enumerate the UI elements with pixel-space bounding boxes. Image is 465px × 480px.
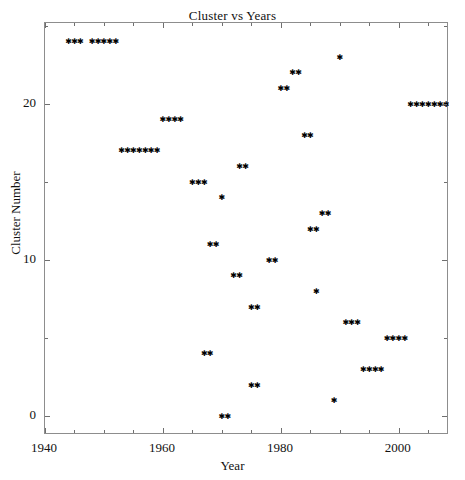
x-tick bbox=[74, 430, 75, 433]
y-tick-right bbox=[444, 338, 447, 339]
scatter-points-layer bbox=[45, 23, 449, 435]
x-tick bbox=[340, 430, 341, 433]
scatter-point bbox=[177, 116, 184, 123]
scatter-point bbox=[407, 101, 414, 108]
chart-figure: Cluster vs Years 1940196019802000 01020 … bbox=[0, 0, 465, 480]
scatter-point bbox=[213, 241, 220, 248]
x-tick-label: 2000 bbox=[368, 440, 428, 456]
y-tick bbox=[45, 416, 50, 417]
x-tick bbox=[104, 430, 105, 433]
y-tick-label: 20 bbox=[0, 95, 36, 111]
scatter-point bbox=[319, 210, 326, 217]
x-tick-label: 1940 bbox=[14, 440, 74, 456]
x-tick-top bbox=[104, 23, 105, 26]
x-tick bbox=[222, 430, 223, 433]
scatter-point bbox=[118, 147, 125, 154]
scatter-point bbox=[201, 350, 208, 357]
scatter-point bbox=[254, 382, 261, 389]
scatter-point bbox=[425, 101, 432, 108]
x-tick-top bbox=[251, 23, 252, 26]
y-tick-right bbox=[444, 182, 447, 183]
scatter-point bbox=[413, 101, 420, 108]
scatter-point bbox=[165, 116, 172, 123]
scatter-point bbox=[336, 54, 343, 61]
y-tick bbox=[45, 260, 50, 261]
x-tick-top bbox=[222, 23, 223, 26]
x-tick-top bbox=[281, 23, 282, 28]
x-axis-title: Year bbox=[0, 458, 465, 474]
y-tick-right bbox=[442, 260, 447, 261]
scatter-point bbox=[201, 179, 208, 186]
x-tick-top bbox=[133, 23, 134, 26]
x-tick-label: 1960 bbox=[132, 440, 192, 456]
x-tick bbox=[310, 430, 311, 433]
scatter-point bbox=[395, 335, 402, 342]
scatter-point bbox=[171, 116, 178, 123]
scatter-point bbox=[218, 194, 225, 201]
y-tick-label: 0 bbox=[0, 407, 36, 423]
scatter-point bbox=[124, 147, 131, 154]
scatter-point bbox=[189, 179, 196, 186]
scatter-point bbox=[313, 226, 320, 233]
scatter-point bbox=[384, 335, 391, 342]
scatter-point bbox=[283, 85, 290, 92]
scatter-point bbox=[389, 335, 396, 342]
scatter-point bbox=[154, 147, 161, 154]
scatter-point bbox=[289, 69, 296, 76]
x-tick bbox=[163, 428, 164, 433]
x-tick bbox=[251, 430, 252, 433]
scatter-point bbox=[77, 38, 84, 45]
x-tick-top bbox=[399, 23, 400, 28]
scatter-point bbox=[100, 38, 107, 45]
scatter-point bbox=[307, 132, 314, 139]
x-tick bbox=[369, 430, 370, 433]
x-tick bbox=[133, 430, 134, 433]
x-tick-top bbox=[163, 23, 164, 28]
scatter-point bbox=[248, 304, 255, 311]
y-tick-right bbox=[442, 104, 447, 105]
scatter-point bbox=[236, 163, 243, 170]
scatter-point bbox=[195, 179, 202, 186]
scatter-point bbox=[307, 226, 314, 233]
scatter-point bbox=[112, 38, 119, 45]
scatter-point bbox=[248, 382, 255, 389]
scatter-point bbox=[277, 85, 284, 92]
scatter-point bbox=[342, 319, 349, 326]
scatter-point bbox=[106, 38, 113, 45]
scatter-point bbox=[95, 38, 102, 45]
scatter-point bbox=[301, 132, 308, 139]
scatter-point bbox=[148, 147, 155, 154]
scatter-point bbox=[378, 366, 385, 373]
scatter-point bbox=[330, 397, 337, 404]
scatter-point bbox=[348, 319, 355, 326]
scatter-point bbox=[325, 210, 332, 217]
x-tick bbox=[192, 430, 193, 433]
scatter-point bbox=[372, 366, 379, 373]
scatter-point bbox=[266, 257, 273, 264]
scatter-point bbox=[254, 304, 261, 311]
scatter-point bbox=[236, 272, 243, 279]
scatter-point bbox=[218, 413, 225, 420]
y-tick bbox=[45, 26, 48, 27]
x-tick-top bbox=[369, 23, 370, 26]
y-tick bbox=[45, 104, 50, 105]
scatter-point bbox=[401, 335, 408, 342]
scatter-point bbox=[272, 257, 279, 264]
y-axis-title: Cluster Number bbox=[8, 123, 24, 303]
plot-area bbox=[44, 22, 448, 434]
scatter-point bbox=[230, 272, 237, 279]
x-tick-top bbox=[428, 23, 429, 26]
x-tick-top bbox=[340, 23, 341, 26]
scatter-point bbox=[130, 147, 137, 154]
x-tick-top bbox=[192, 23, 193, 26]
scatter-point bbox=[366, 366, 373, 373]
scatter-point bbox=[136, 147, 143, 154]
scatter-point bbox=[242, 163, 249, 170]
scatter-point bbox=[207, 350, 214, 357]
x-tick bbox=[399, 428, 400, 433]
scatter-point bbox=[71, 38, 78, 45]
scatter-point bbox=[159, 116, 166, 123]
scatter-point bbox=[419, 101, 426, 108]
y-tick-right bbox=[444, 26, 447, 27]
y-tick-right bbox=[442, 416, 447, 417]
